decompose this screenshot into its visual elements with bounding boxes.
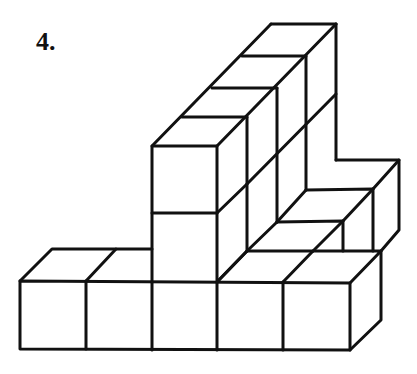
right-steps xyxy=(247,160,399,251)
cube-structure-figure xyxy=(0,0,417,374)
tower xyxy=(152,146,247,282)
back-wall xyxy=(152,24,336,251)
bottom-row xyxy=(20,249,381,350)
